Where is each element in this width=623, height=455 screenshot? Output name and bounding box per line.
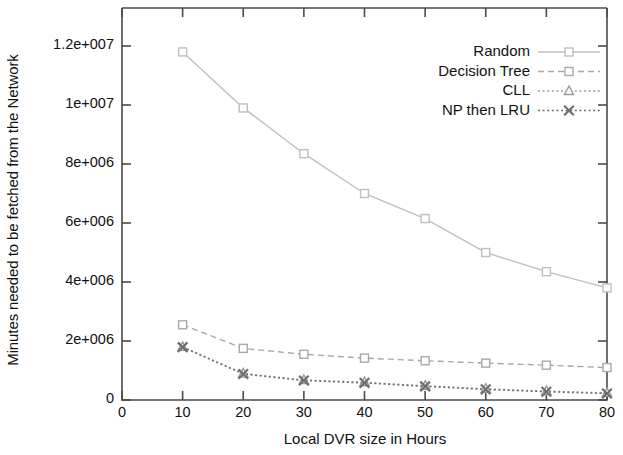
- y-tick-label: 0: [20, 390, 114, 406]
- data-point-marker: [565, 48, 573, 56]
- y-tick-label: 6e+006: [20, 213, 114, 229]
- data-series: [179, 321, 611, 372]
- y-tick-label: 2e+006: [20, 331, 114, 347]
- x-tick-label: 0: [102, 404, 142, 420]
- data-point-marker: [239, 344, 247, 352]
- data-point-marker: [421, 215, 429, 223]
- data-point-marker: [300, 150, 308, 158]
- data-point-marker: [565, 68, 573, 76]
- data-point-marker: [239, 104, 247, 112]
- y-axis-title: Minutes needed to be fetched from the Ne…: [2, 0, 24, 420]
- x-axis-title: Local DVR size in Hours: [122, 430, 608, 447]
- data-point-marker: [179, 321, 187, 329]
- data-point-marker: [542, 268, 550, 276]
- data-point-marker: [300, 350, 308, 358]
- legend-label-np-then-lru: NP then LRU: [280, 101, 530, 118]
- x-tick-label: 70: [526, 404, 566, 420]
- legend-marker-group: [538, 48, 600, 115]
- chart-figure: Minutes needed to be fetched from the Ne…: [0, 0, 623, 455]
- data-point-marker: [482, 359, 490, 367]
- x-tick-label: 10: [163, 404, 203, 420]
- x-tick-label: 30: [284, 404, 324, 420]
- data-point-marker: [361, 190, 369, 198]
- data-point-marker: [603, 364, 611, 372]
- x-tick-label: 80: [587, 404, 623, 420]
- y-tick-label: 4e+006: [20, 272, 114, 288]
- y-tick-label: 8e+006: [20, 154, 114, 170]
- legend-label-cll: CLL: [280, 81, 530, 98]
- x-tick-label: 40: [345, 404, 385, 420]
- x-tick-label: 20: [223, 404, 263, 420]
- x-tick-label: 50: [405, 404, 445, 420]
- y-tick-label: 1.2e+007: [20, 36, 114, 52]
- data-point-marker: [482, 249, 490, 257]
- x-tick-label: 60: [466, 404, 506, 420]
- legend-label-decision-tree: Decision Tree: [280, 62, 530, 79]
- data-point-marker: [421, 357, 429, 365]
- y-tick-label: 1e+007: [20, 95, 114, 111]
- data-point-marker: [603, 284, 611, 292]
- data-point-marker: [564, 86, 573, 95]
- data-point-marker: [179, 48, 187, 56]
- data-point-marker: [361, 354, 369, 362]
- data-point-marker: [542, 361, 550, 369]
- legend-label-random: Random: [280, 42, 530, 59]
